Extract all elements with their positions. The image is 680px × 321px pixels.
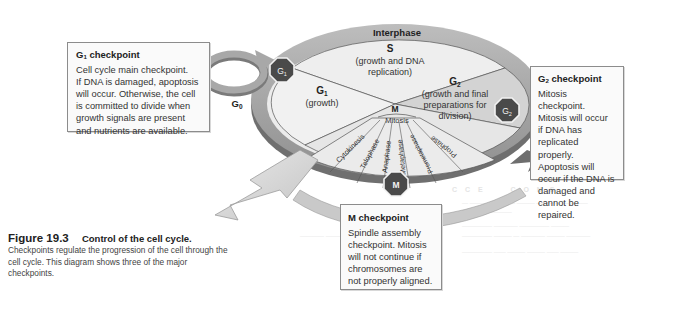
figure-number: Figure 19.3 [8,232,69,244]
interphase-label: Interphase [373,27,421,38]
m-checkpoint-line: not properly aligned. [348,275,434,287]
g2-checkpoint-line: replicated properly. [538,136,616,160]
m-checkpoint-badge: M [384,172,408,196]
m-checkpoint-line: chromosomes are [348,263,434,275]
g2-checkpoint-line: Mitosis will occur [538,112,616,124]
g2-checkpoint-line: Apoptosis will [538,161,616,173]
g1-checkpoint-badge: G1 [270,58,294,82]
s-phase-detail-2: replication) [368,67,412,77]
figure-caption: Figure 19.3 Control of the cell cycle. C… [8,232,233,280]
g2-checkpoint-callout: G2 checkpoint Mitosis checkpoint. Mitosi… [530,66,624,180]
g2-checkpoint-line: cannot be repaired. [538,197,616,221]
g2-phase-detail-3: division) [438,111,471,121]
m-checkpoint-line: checkpoint. Mitosis [348,239,434,251]
g1-checkpoint-callout: G1 checkpoint Cell cycle main checkpoint… [67,42,210,132]
g2-checkpoint-line: damaged and [538,185,616,197]
g2-phase-detail-2: preparations for [423,100,486,110]
g2-phase-detail-1: (growth and final [422,89,489,99]
g2-checkpoint-line: occur if the DNA is [538,173,616,185]
g2-checkpoint-line: Mitosis checkpoint. [538,88,616,112]
figure-description: Checkpoints regulate the progression of … [8,245,233,280]
g1-checkpoint-line: If DNA is damaged, apoptosis [76,76,201,88]
g1-checkpoint-line: will occur. Otherwise, the cell [76,88,201,100]
g0-label: G0 [231,98,242,110]
m-checkpoint-callout: M checkpoint Spindle assembly checkpoint… [340,204,442,290]
g1-phase-detail: (growth) [305,98,338,108]
m-checkpoint-line: will not continue if [348,251,434,263]
g2-checkpoint-title: G2 checkpoint [538,73,616,87]
s-phase-name: S [387,43,394,54]
g1-checkpoint-line: Cell cycle main checkpoint. [76,64,201,76]
mitosis-label: Mitosis [385,116,409,125]
svg-text:M: M [392,180,399,190]
g1-checkpoint-line: growth signals are present [76,112,201,124]
g2-checkpoint-line: if DNA has [538,124,616,136]
g1-checkpoint-line: and nutrients are available. [76,125,201,137]
figure-heading: Figure 19.3 Control of the cell cycle. [8,232,233,244]
g2-checkpoint-badge: G2 [495,98,519,122]
m-checkpoint-title: M checkpoint [348,212,434,224]
figure-title: Control of the cell cycle. [82,233,192,244]
m-checkpoint-line: Spindle assembly [348,227,434,239]
m-phase-name: M [391,104,398,114]
exit-arrow [215,150,318,220]
g1-checkpoint-title: G1 checkpoint [76,49,201,63]
s-phase-detail-1: (growth and DNA [355,56,424,66]
g1-checkpoint-line: is committed to divide when [76,100,201,112]
